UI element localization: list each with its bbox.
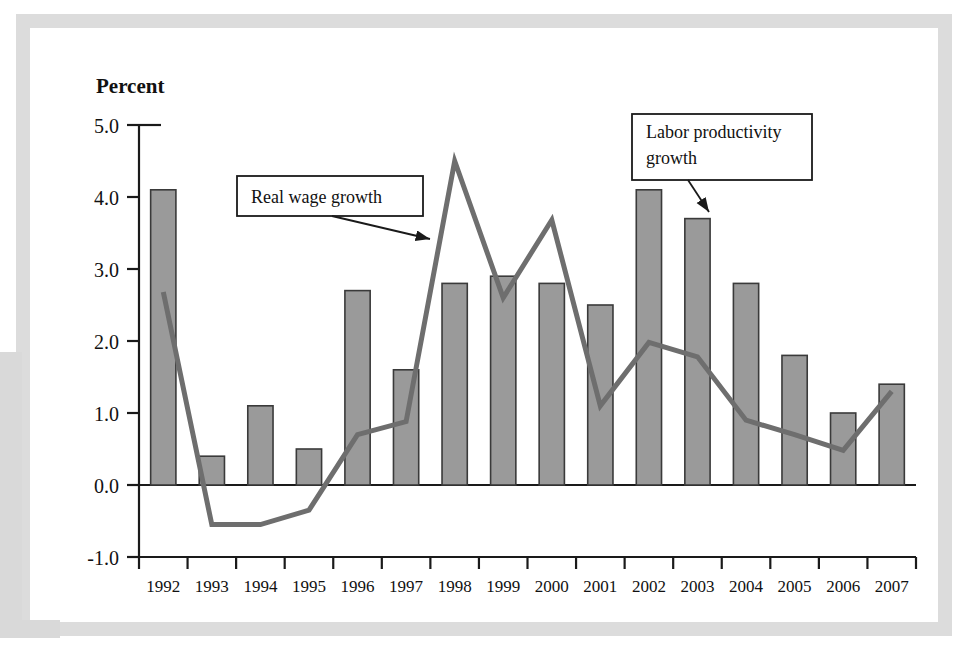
annotation-label: Labor productivity bbox=[646, 122, 781, 142]
x-tick-label: 2002 bbox=[632, 577, 666, 596]
x-tick-label: 2003 bbox=[680, 577, 714, 596]
annotation-arrow-icon bbox=[688, 180, 709, 212]
x-axis-tick-labels: 1992199319941995199619971998199920002001… bbox=[146, 577, 909, 596]
x-axis-ticks bbox=[139, 557, 916, 569]
y-tick-label: 1.0 bbox=[94, 403, 119, 425]
annotation-real-wage-growth: Real wage growth bbox=[237, 176, 430, 239]
y-tick-label: 3.0 bbox=[94, 259, 119, 281]
y-tick-label: 0.0 bbox=[94, 475, 119, 497]
x-tick-label: 1996 bbox=[341, 577, 375, 596]
bar-series-real-wage-growth bbox=[151, 190, 905, 485]
x-tick-label: 1993 bbox=[195, 577, 229, 596]
y-tick-label: 5.0 bbox=[94, 115, 119, 137]
bar bbox=[539, 283, 564, 485]
x-tick-label: 1994 bbox=[243, 577, 278, 596]
bar bbox=[636, 190, 661, 485]
chart-canvas: Percent 5.04.03.02.01.00.0-1.0 199219931… bbox=[0, 0, 968, 666]
x-tick-label: 1998 bbox=[438, 577, 472, 596]
bar bbox=[442, 283, 467, 485]
y-tick-label: -1.0 bbox=[87, 547, 119, 569]
x-tick-label: 1992 bbox=[146, 577, 180, 596]
bar bbox=[782, 355, 807, 485]
x-tick-label: 1999 bbox=[486, 577, 520, 596]
x-tick-label: 1995 bbox=[292, 577, 326, 596]
x-tick-label: 2005 bbox=[778, 577, 812, 596]
chart-annotations: Real wage growthLabor productivitygrowth bbox=[237, 114, 812, 239]
x-tick-label: 1997 bbox=[389, 577, 424, 596]
y-tick-label: 2.0 bbox=[94, 331, 119, 353]
bar bbox=[296, 449, 321, 485]
bar bbox=[345, 291, 370, 485]
scanned-figure-page: Percent 5.04.03.02.01.00.0-1.0 199219931… bbox=[0, 0, 968, 666]
x-tick-label: 2001 bbox=[583, 577, 617, 596]
x-tick-label: 2006 bbox=[826, 577, 860, 596]
y-axis-tick-labels: 5.04.03.02.01.00.0-1.0 bbox=[87, 115, 119, 569]
x-tick-label: 2000 bbox=[535, 577, 569, 596]
bar bbox=[248, 406, 273, 485]
bar bbox=[491, 276, 516, 485]
annotation-arrow-icon bbox=[332, 216, 430, 239]
y-tick-label: 4.0 bbox=[94, 187, 119, 209]
x-tick-label: 2007 bbox=[875, 577, 910, 596]
bar bbox=[733, 283, 758, 485]
y-axis-title: Percent bbox=[96, 74, 164, 98]
annotation-label: growth bbox=[646, 148, 697, 168]
x-tick-label: 2004 bbox=[729, 577, 764, 596]
annotation-label: Real wage growth bbox=[251, 187, 382, 207]
